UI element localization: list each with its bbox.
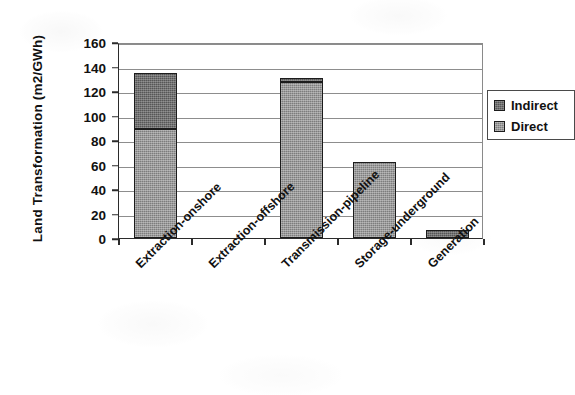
y-axis-tick-label: 40 — [66, 183, 106, 198]
y-axis-tick-label: 140 — [66, 60, 106, 75]
legend-label-direct: Direct — [511, 120, 548, 133]
x-axis-tick-mark — [483, 239, 485, 245]
x-axis-tick-mark — [191, 239, 193, 245]
y-axis-tick-label: 60 — [66, 158, 106, 173]
y-axis-tick-label: 160 — [66, 36, 106, 51]
legend-swatch-indirect — [494, 100, 505, 111]
bar-segment-direct — [280, 82, 323, 238]
x-axis-tick-mark — [264, 239, 266, 245]
y-axis-tick-label: 20 — [66, 207, 106, 222]
y-axis-tick-label: 120 — [66, 85, 106, 100]
legend-item-direct: Direct — [494, 116, 574, 137]
legend-item-indirect: Indirect — [494, 95, 574, 116]
x-axis-tick-mark — [337, 239, 339, 245]
x-axis-tick-mark — [118, 239, 120, 245]
x-axis-tick-mark — [410, 239, 412, 245]
y-axis-tick-label: 0 — [66, 232, 106, 247]
y-axis-title: Land Transformation (m2/GWh) — [30, 9, 45, 269]
bar-segment-indirect — [134, 73, 177, 129]
plot-area: Indirect Direct — [118, 43, 483, 239]
y-axis-tick-label: 80 — [66, 134, 106, 149]
gridline — [119, 69, 482, 70]
chart-legend: Indirect Direct — [487, 90, 575, 140]
legend-swatch-direct — [494, 121, 505, 132]
bar-segment-indirect — [280, 78, 323, 83]
y-axis-tick-label: 100 — [66, 109, 106, 124]
gridline — [119, 44, 482, 45]
legend-label-indirect: Indirect — [511, 99, 558, 112]
